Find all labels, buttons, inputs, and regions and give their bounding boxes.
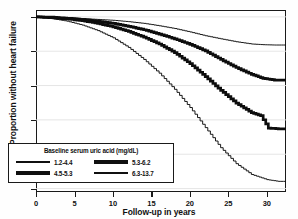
chart-figure: Proportion without heart failure Follow-… — [0, 0, 298, 219]
legend-row: 4.5-5.36.3-13.7 — [13, 168, 169, 179]
y-tick — [31, 120, 36, 121]
legend-line-swatch — [16, 171, 50, 174]
legend-entry-1.2-4.4: 1.2-4.4 — [13, 159, 91, 166]
x-tick-label: 25 — [216, 199, 240, 208]
y-tick — [31, 17, 36, 18]
y-tick — [31, 189, 36, 190]
x-tick-label: 10 — [101, 199, 125, 208]
legend-entry-label: 1.2-4.4 — [54, 159, 72, 166]
x-tick-label: 0 — [24, 199, 48, 208]
y-tick — [31, 51, 36, 52]
legend-entries: 1.2-4.45.3-6.24.5-5.36.3-13.7 — [13, 157, 169, 179]
x-tick — [151, 192, 152, 197]
y-axis-label: Proportion without heart failure — [8, 8, 18, 158]
x-tick — [267, 192, 268, 197]
x-tick — [190, 192, 191, 197]
legend-entry-4.5-5.3: 4.5-5.3 — [13, 170, 91, 177]
x-tick — [113, 192, 114, 197]
legend-title: Baseline serum uric acid (mg/dL) — [13, 147, 169, 154]
legend-line-swatch — [94, 160, 128, 163]
x-tick — [36, 192, 37, 197]
x-tick-label: 15 — [139, 199, 163, 208]
y-tick — [31, 86, 36, 87]
x-axis-label: Follow-up in years — [30, 207, 288, 217]
x-tick-label: 30 — [255, 199, 279, 208]
x-tick — [75, 192, 76, 197]
legend-line-swatch — [94, 172, 128, 173]
legend-row: 1.2-4.45.3-6.2 — [13, 157, 169, 168]
legend: Baseline serum uric acid (mg/dL) 1.2-4.4… — [8, 143, 174, 183]
legend-entry-label: 4.5-5.3 — [54, 170, 72, 177]
curve-4.5-5.3 — [36, 17, 286, 80]
x-tick-label: 5 — [63, 199, 87, 208]
legend-entry-5.3-6.2: 5.3-6.2 — [91, 159, 169, 166]
legend-line-swatch — [16, 161, 50, 163]
x-tick-label: 20 — [178, 199, 202, 208]
legend-entry-label: 5.3-6.2 — [132, 159, 150, 166]
legend-entry-6.3-13.7: 6.3-13.7 — [91, 170, 169, 177]
x-tick — [228, 192, 229, 197]
legend-entry-label: 6.3-13.7 — [132, 170, 154, 177]
